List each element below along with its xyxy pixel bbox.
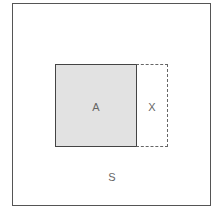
region-a-label: A (92, 102, 99, 113)
outer-region-s-label: S (108, 172, 115, 183)
region-x-label: X (148, 102, 155, 113)
